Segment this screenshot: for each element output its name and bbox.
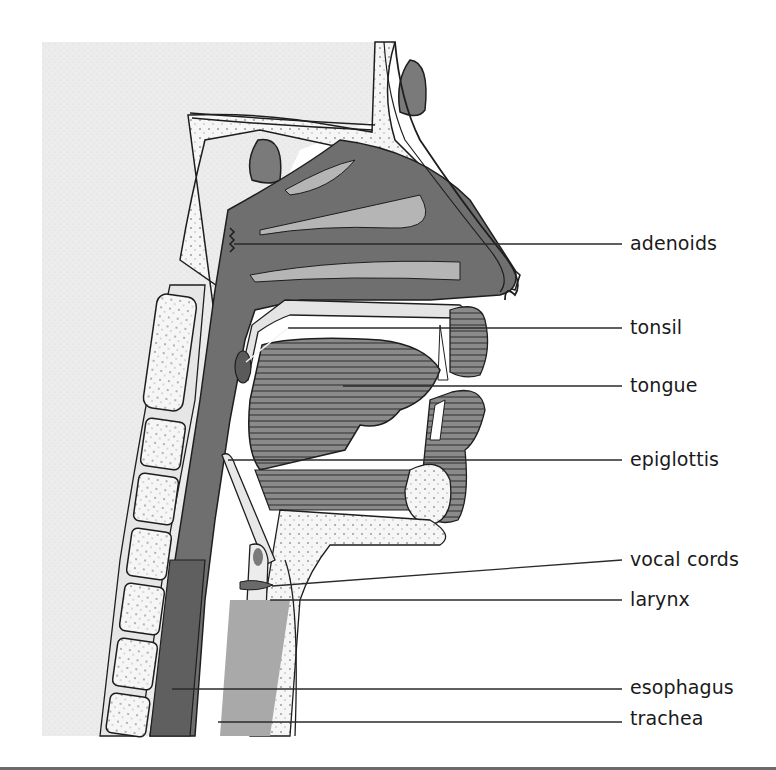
label-tongue: tongue (630, 376, 698, 395)
label-epiglottis: epiglottis (630, 450, 719, 469)
tonsil-shape (235, 351, 251, 383)
label-tonsil: tonsil (630, 318, 682, 337)
label-trachea: trachea (630, 709, 703, 728)
label-larynx: larynx (630, 590, 690, 609)
label-vocal-cords: vocal cords (630, 550, 739, 569)
leader-line-vocal-cords (272, 560, 622, 586)
label-adenoids: adenoids (630, 234, 717, 253)
label-esophagus: esophagus (630, 678, 734, 697)
